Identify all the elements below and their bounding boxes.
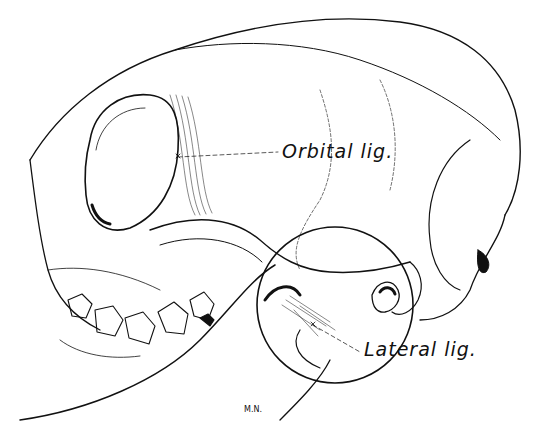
- lateral-ligament-label: Lateral lig.: [364, 338, 477, 360]
- skull-diagram: Orbital lig. Lateral lig. M.N.: [0, 0, 534, 443]
- skull-drawing: [0, 0, 534, 443]
- orbital-ligament-label: Orbital lig.: [282, 140, 393, 162]
- artist-signature: M.N.: [244, 405, 262, 414]
